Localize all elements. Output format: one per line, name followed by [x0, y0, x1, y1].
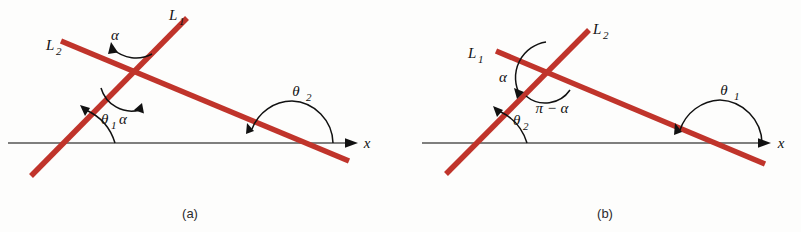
- svg-text:L: L: [45, 37, 54, 53]
- svg-text:1: 1: [179, 15, 185, 27]
- angle-arc-alpha-top-arrowhead-a: [108, 42, 118, 54]
- label-l2-a: L 2: [45, 37, 62, 57]
- line-l1-a: [31, 18, 187, 176]
- panel-caption-b: (b): [597, 206, 613, 221]
- x-axis-arrowhead-b: [758, 138, 771, 148]
- svg-text:L: L: [168, 7, 177, 23]
- angle-label-theta2-a: θ: [292, 83, 300, 99]
- x-axis-arrowhead-a: [345, 138, 358, 148]
- panel-a: x L 2 L 1 α α: [0, 0, 400, 232]
- x-axis-label-a: x: [363, 135, 371, 151]
- x-axis-label-b: x: [777, 135, 785, 151]
- angle-label-theta1-sub-a: 1: [111, 119, 117, 131]
- label-l1-b: L 1: [467, 45, 484, 65]
- svg-text:L: L: [592, 21, 601, 37]
- figure-container: x L 2 L 1 α α: [0, 0, 801, 232]
- svg-text:L: L: [467, 45, 476, 61]
- angle-arc-alpha-top-a: α: [108, 27, 152, 58]
- angle-label-theta2-b: θ: [513, 112, 521, 128]
- angle-label-alpha-b: α: [499, 69, 508, 85]
- angle-label-pi-minus-alpha-b: π − α: [535, 100, 569, 116]
- label-l2-b: L 2: [592, 21, 609, 41]
- svg-text:2: 2: [603, 29, 609, 41]
- svg-text:2: 2: [56, 45, 62, 57]
- angle-label-alpha-bottom-a: α: [119, 111, 128, 127]
- angle-label-theta1-a: θ: [101, 111, 109, 127]
- panel-caption-a: (a): [182, 206, 198, 221]
- svg-text:1: 1: [478, 53, 484, 65]
- label-l1-a: L 1: [168, 7, 185, 27]
- angle-label-theta2-sub-b: 2: [523, 120, 529, 132]
- angle-label-theta1-b: θ: [720, 82, 728, 98]
- angle-label-alpha-top-a: α: [111, 27, 120, 43]
- angle-arc-pi-minus-alpha-b: π − α: [526, 90, 570, 116]
- angle-label-theta1-sub-b: 1: [734, 90, 740, 102]
- angle-label-theta2-sub-a: 2: [306, 91, 312, 103]
- angle-arc-alpha-bottom-arrowhead-a: [134, 103, 144, 114]
- panel-b: x L 1 L 2 α π − α θ: [400, 0, 801, 232]
